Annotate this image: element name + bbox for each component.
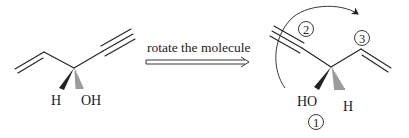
left-h-label: H	[51, 93, 61, 108]
priority-2-label: 2	[303, 23, 309, 37]
priority-2-marker: 2	[299, 22, 314, 37]
priority-3-marker: 3	[355, 31, 370, 46]
right-alkyne-single-bond	[302, 48, 331, 67]
alkyne-single-bond	[74, 51, 103, 68]
vinyl-single-bond	[44, 52, 74, 68]
hash-bond-h	[332, 69, 345, 89]
rotate-arrow-label: rotate the molecule	[147, 40, 250, 55]
wedge-bond-ho	[314, 67, 331, 90]
left-molecule	[15, 29, 135, 73]
diagram-canvas: H OH rotate the molecule HO H	[0, 0, 409, 138]
hash-bond-oh	[75, 70, 84, 88]
priority-1-label: 1	[313, 116, 319, 130]
priority-1-marker: 1	[309, 115, 324, 130]
right-vinyl-single-bond	[331, 49, 361, 67]
left-oh-label: OH	[81, 93, 101, 108]
wedge-bond-h	[59, 68, 74, 90]
right-h-label: H	[343, 99, 353, 114]
clockwise-rotation-arrow	[276, 6, 358, 88]
priority-3-label: 3	[359, 32, 365, 46]
right-ho-label: HO	[297, 94, 317, 109]
open-reaction-arrow	[146, 57, 249, 67]
right-vinyl-double-outer	[361, 49, 391, 68]
right-molecule	[270, 26, 391, 72]
